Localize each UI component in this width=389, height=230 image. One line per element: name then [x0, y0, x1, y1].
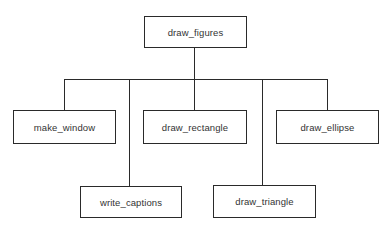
node-draw-figures: draw_figures — [144, 16, 247, 48]
node-label: make_window — [34, 122, 95, 133]
connector-write-captions — [129, 79, 130, 186]
horizontal-bus-line — [64, 79, 328, 80]
node-label: draw_ellipse — [300, 122, 354, 133]
node-draw-rectangle: draw_rectangle — [143, 110, 247, 144]
node-make-window: make_window — [13, 110, 116, 144]
connector-make-window — [64, 79, 65, 110]
node-label: draw_figures — [168, 27, 224, 38]
connector-draw-ellipse — [327, 79, 328, 110]
connector-draw-rectangle — [194, 79, 195, 110]
node-draw-ellipse: draw_ellipse — [276, 110, 379, 144]
node-draw-triangle: draw_triangle — [213, 185, 316, 218]
node-label: draw_triangle — [235, 196, 293, 207]
connector-draw-triangle — [262, 79, 263, 185]
node-label: write_captions — [100, 197, 162, 208]
root-stem-line — [194, 47, 195, 80]
node-write-captions: write_captions — [80, 186, 182, 218]
node-label: draw_rectangle — [162, 122, 228, 133]
